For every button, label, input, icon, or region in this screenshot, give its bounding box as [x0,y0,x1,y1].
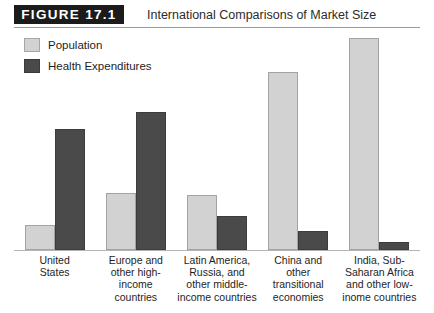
bar-population[interactable] [25,225,55,250]
category-label: Europe andother high-incomecountries [95,254,176,303]
bar-group-bars [14,38,95,250]
x-axis-baseline [14,250,420,251]
bar-population[interactable] [268,72,298,250]
bar-group [258,38,339,250]
figure-title: International Comparisons of Market Size [147,6,376,24]
bar-population[interactable] [187,195,217,250]
plot-area [14,38,420,250]
bar-group [176,38,257,250]
bar-health-expenditures[interactable] [379,242,409,250]
bar-health-expenditures[interactable] [136,112,166,250]
bar-group-bars [95,38,176,250]
bar-health-expenditures[interactable] [298,231,328,250]
figure-container: FIGURE 17.1 International Comparisons of… [0,0,434,313]
bar-health-expenditures[interactable] [217,216,247,250]
bar-group [95,38,176,250]
category-label: UnitedStates [14,254,95,278]
figure-number-badge: FIGURE 17.1 [14,5,124,24]
bar-group-bars [176,38,257,250]
bar-population[interactable] [106,193,136,250]
bar-group-bars [258,38,339,250]
category-labels: UnitedStatesEurope andother high-incomec… [14,254,420,312]
figure-header: FIGURE 17.1 International Comparisons of… [14,5,420,27]
bar-group-bars [339,38,420,250]
bar-population[interactable] [349,38,379,250]
header-divider [14,27,420,28]
bar-group [14,38,95,250]
bar-group [339,38,420,250]
category-label: China andothertransitionaleconomies [258,254,339,303]
category-label: India, Sub-Saharan Africaand other low-i… [339,254,420,303]
category-label: Latin America,Russia, andother middle-in… [176,254,257,303]
bar-health-expenditures[interactable] [55,129,85,250]
